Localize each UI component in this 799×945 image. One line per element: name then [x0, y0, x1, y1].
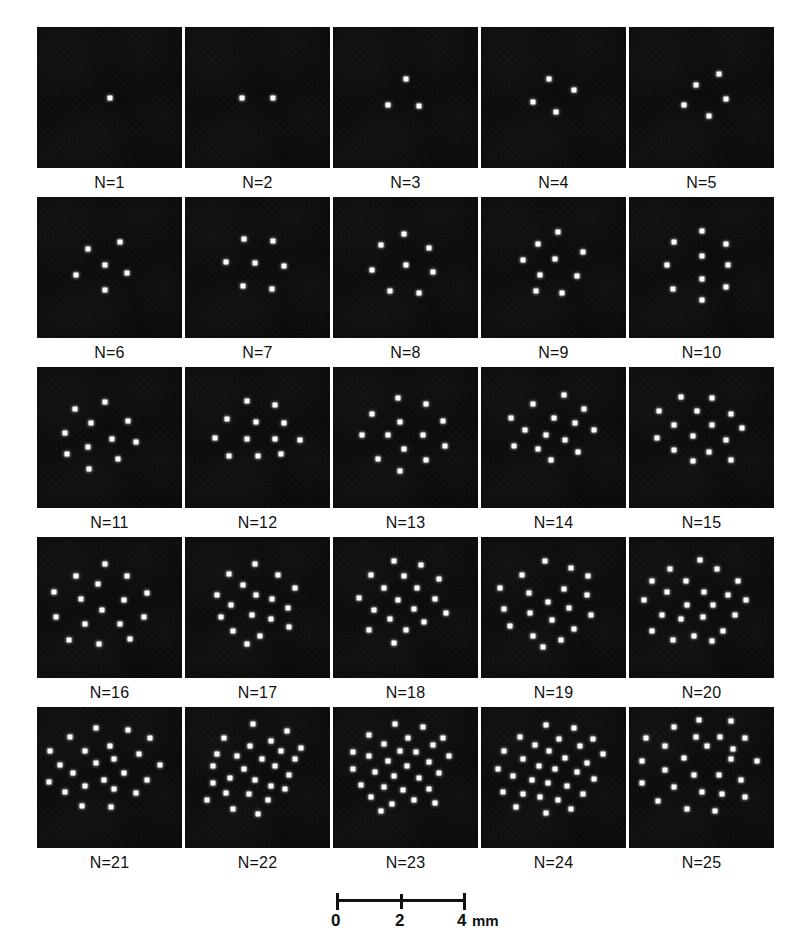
ion-dot	[136, 751, 141, 756]
panel-image-n17	[185, 537, 330, 678]
ion-dot	[716, 772, 721, 777]
ion-dot	[581, 407, 586, 412]
ion-dot	[117, 240, 122, 245]
ion-dot	[420, 432, 425, 437]
ion-dot	[386, 758, 391, 763]
ion-dot	[403, 628, 408, 633]
ion-dot	[360, 432, 365, 437]
ion-dot	[544, 432, 549, 437]
panel-image-n13	[333, 367, 478, 508]
ion-dot	[297, 438, 302, 443]
panel-image-n11	[37, 367, 182, 508]
panel-cell-n4: N=4	[481, 27, 626, 197]
ion-dot	[285, 605, 290, 610]
ion-dot	[226, 453, 231, 458]
panel-label-n9: N=9	[481, 338, 626, 367]
ion-dot	[423, 458, 428, 463]
ion-dot	[657, 408, 662, 413]
ion-dot	[743, 736, 748, 741]
ion-dot	[71, 771, 76, 776]
panel-cell-n2: N=2	[185, 27, 330, 197]
ion-dot	[403, 77, 408, 82]
ion-dot	[412, 798, 417, 803]
ion-dot	[373, 769, 378, 774]
scale-bar-label-4: 4	[457, 911, 466, 931]
ion-dot	[721, 629, 726, 634]
ion-dot	[731, 747, 736, 752]
ion-dot	[660, 612, 665, 617]
ion-dot	[254, 419, 259, 424]
ion-dot	[416, 103, 421, 108]
ion-dot	[592, 776, 597, 781]
ion-layer-n12	[185, 367, 330, 508]
ion-dot	[586, 574, 591, 579]
ion-dot	[210, 764, 215, 769]
ion-dot	[415, 585, 420, 590]
ion-dot	[111, 757, 116, 762]
ion-dot	[508, 623, 513, 628]
ion-dot	[548, 458, 553, 463]
scale-bar-tick-2	[400, 894, 403, 909]
ion-dot	[95, 581, 100, 586]
panel-cell-n25: N=25	[629, 707, 774, 877]
ion-dot	[715, 567, 720, 572]
scale-bar-tick-0	[336, 893, 339, 910]
panel-cell-n16: N=16	[37, 537, 182, 707]
ion-dot	[696, 717, 701, 722]
ion-dot	[500, 789, 505, 794]
ion-dot	[576, 449, 581, 454]
ion-dot	[375, 456, 380, 461]
ion-dot	[254, 592, 259, 597]
ion-dot	[728, 458, 733, 463]
ion-dot	[85, 247, 90, 252]
ion-dot	[255, 812, 260, 817]
ion-dot	[552, 257, 557, 262]
ion-dot	[62, 789, 67, 794]
ion-layer-n1	[37, 27, 182, 168]
ion-dot	[239, 95, 244, 100]
ion-dot	[241, 283, 246, 288]
ion-dot	[551, 415, 556, 420]
ion-dot	[699, 254, 704, 259]
panel-image-n12	[185, 367, 330, 508]
panel-cell-n10: N=10	[629, 197, 774, 367]
ion-layer-n23	[333, 707, 478, 848]
ion-dot	[48, 748, 53, 753]
ion-layer-n4	[481, 27, 626, 168]
ion-dot	[699, 297, 704, 302]
ion-dot	[272, 403, 277, 408]
panel-label-n21: N=21	[37, 848, 182, 877]
panel-image-n9	[481, 197, 626, 338]
ion-layer-n14	[481, 367, 626, 508]
ion-dot	[268, 616, 273, 621]
ion-dot	[502, 748, 507, 753]
ion-dot	[699, 276, 704, 281]
ion-dot	[554, 109, 559, 114]
ion-dot	[229, 602, 234, 607]
ion-dot	[145, 591, 150, 596]
ion-dot	[367, 754, 372, 759]
ion-dot	[259, 757, 264, 762]
ion-dot	[571, 726, 576, 731]
ion-layer-n15	[629, 367, 774, 508]
ion-dot	[246, 792, 251, 797]
ion-dot	[214, 592, 219, 597]
panel-cell-n6: N=6	[37, 197, 182, 367]
ion-dot	[577, 744, 582, 749]
ion-dot	[567, 605, 572, 610]
ion-dot	[94, 726, 99, 731]
panel-label-n20: N=20	[629, 678, 774, 707]
panel-image-n22	[185, 707, 330, 848]
ion-layer-n3	[333, 27, 478, 168]
ion-dot	[226, 571, 231, 576]
ion-dot	[544, 810, 549, 815]
ion-dot	[219, 615, 224, 620]
ion-dot	[709, 639, 714, 644]
ion-dot	[52, 589, 57, 594]
ion-dot	[378, 242, 383, 247]
ion-dot	[400, 788, 405, 793]
ion-dot	[568, 806, 573, 811]
ion-dot	[712, 809, 717, 814]
panel-cell-n8: N=8	[333, 197, 478, 367]
ion-dot	[724, 285, 729, 290]
